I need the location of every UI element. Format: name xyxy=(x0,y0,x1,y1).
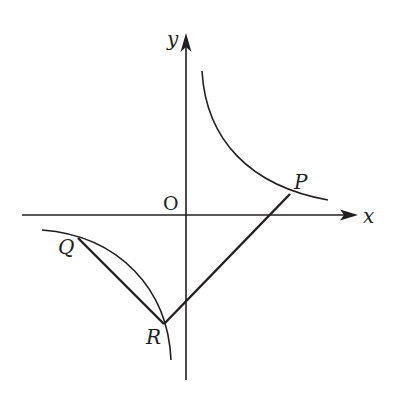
segment-QR xyxy=(78,238,164,324)
x-axis xyxy=(22,210,358,221)
origin-label: O xyxy=(163,192,179,214)
hyperbola-diagram: y x O P Q R xyxy=(0,0,398,395)
y-axis-label: y xyxy=(166,27,179,51)
point-label-P: P xyxy=(293,170,308,194)
y-axis xyxy=(181,33,192,380)
hyperbola-branch-upper xyxy=(202,71,328,200)
x-axis-label: x xyxy=(363,204,374,228)
point-label-R: R xyxy=(145,325,161,349)
point-label-Q: Q xyxy=(58,235,74,259)
segment-RP xyxy=(164,194,290,324)
